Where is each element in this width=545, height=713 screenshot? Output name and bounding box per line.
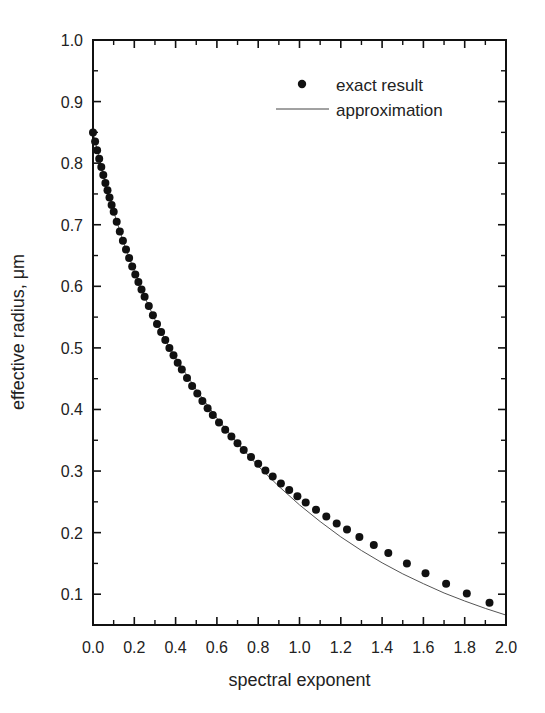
x-tick-label: 1.8 xyxy=(454,639,476,656)
data-point xyxy=(95,155,103,163)
data-point xyxy=(153,320,161,328)
chart: 0.00.20.40.60.81.01.21.41.61.82.0 0.10.2… xyxy=(0,0,545,713)
x-tick-label: 0.6 xyxy=(206,639,228,656)
data-point xyxy=(170,351,178,359)
data-point xyxy=(106,194,114,202)
x-tick-label: 1.0 xyxy=(288,639,310,656)
data-point xyxy=(104,186,112,194)
data-point xyxy=(221,426,229,434)
data-point xyxy=(165,344,173,352)
data-point xyxy=(261,466,269,474)
x-tick-label: 0.2 xyxy=(123,639,145,656)
data-point xyxy=(110,208,118,216)
y-tick-label: 0.6 xyxy=(61,278,83,295)
data-point xyxy=(293,492,301,500)
data-point xyxy=(215,418,223,426)
data-point xyxy=(442,580,450,588)
data-point xyxy=(198,397,206,405)
data-point xyxy=(422,569,430,577)
data-point xyxy=(101,179,109,187)
data-point xyxy=(99,171,107,179)
x-tick-label: 1.2 xyxy=(330,639,352,656)
plot-frame xyxy=(93,40,506,625)
data-point xyxy=(333,519,341,527)
data-point xyxy=(119,237,127,245)
exact-result-points xyxy=(89,128,494,606)
data-point xyxy=(141,293,149,301)
x-tick-label: 0.0 xyxy=(82,639,104,656)
data-point xyxy=(128,263,136,271)
data-point xyxy=(322,513,330,521)
data-point xyxy=(113,218,121,226)
y-tick-label: 0.9 xyxy=(61,94,83,111)
y-tick-label: 0.3 xyxy=(61,463,83,480)
data-point xyxy=(312,506,320,514)
data-point xyxy=(209,411,217,419)
x-axis-ticks: 0.00.20.40.60.81.01.21.41.61.82.0 xyxy=(82,40,517,656)
data-point xyxy=(161,336,169,344)
data-point xyxy=(116,228,124,236)
data-point xyxy=(277,479,285,487)
data-point xyxy=(145,302,153,310)
data-point xyxy=(240,446,248,454)
data-point xyxy=(285,486,293,494)
y-tick-label: 0.4 xyxy=(61,401,83,418)
data-point xyxy=(403,559,411,567)
x-tick-label: 0.8 xyxy=(247,639,269,656)
y-tick-label: 1.0 xyxy=(61,32,83,49)
y-tick-label: 0.8 xyxy=(61,155,83,172)
x-tick-label: 0.4 xyxy=(164,639,186,656)
data-point xyxy=(157,328,165,336)
data-point xyxy=(269,473,277,481)
data-point xyxy=(183,374,191,382)
data-point xyxy=(193,390,201,398)
data-point xyxy=(234,439,242,447)
data-point xyxy=(486,599,494,607)
data-point xyxy=(302,499,310,507)
y-tick-label: 0.7 xyxy=(61,217,83,234)
data-point xyxy=(93,146,101,154)
data-point xyxy=(149,311,157,319)
data-point xyxy=(138,285,146,293)
data-point xyxy=(134,278,142,286)
data-point xyxy=(108,201,116,209)
approximation-line xyxy=(93,132,506,615)
data-point xyxy=(463,590,471,598)
data-point xyxy=(227,433,235,441)
data-point xyxy=(131,271,139,279)
data-point xyxy=(254,460,262,468)
x-tick-label: 1.6 xyxy=(412,639,434,656)
y-tick-label: 0.5 xyxy=(61,340,83,357)
data-point xyxy=(204,404,212,412)
data-point xyxy=(178,365,186,373)
y-tick-label: 0.1 xyxy=(61,586,83,603)
data-point xyxy=(355,533,363,541)
data-point xyxy=(343,526,351,534)
legend-label-exact: exact result xyxy=(336,76,423,95)
legend-label-approximation: approximation xyxy=(336,101,443,120)
data-point xyxy=(125,254,133,262)
legend-dot-icon xyxy=(298,80,306,88)
x-axis-label: spectral exponent xyxy=(228,670,370,690)
y-axis-label: effective radius, μm xyxy=(8,254,28,410)
data-point xyxy=(188,382,196,390)
legend: exact result approximation xyxy=(276,76,443,120)
data-point xyxy=(122,245,130,253)
x-tick-label: 2.0 xyxy=(495,639,517,656)
data-point xyxy=(97,163,105,171)
y-tick-label: 0.2 xyxy=(61,525,83,542)
data-point xyxy=(370,541,378,549)
data-point xyxy=(247,453,255,461)
y-axis-ticks: 0.10.20.30.40.50.60.70.80.91.0 xyxy=(61,32,506,625)
x-tick-label: 1.4 xyxy=(371,639,393,656)
data-point xyxy=(174,359,182,367)
data-point xyxy=(384,549,392,557)
plot-area xyxy=(89,128,506,615)
